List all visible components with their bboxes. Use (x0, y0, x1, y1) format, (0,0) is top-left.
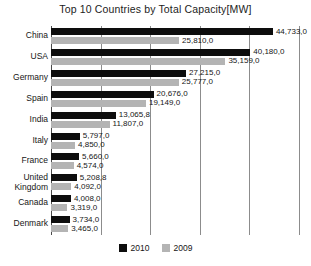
bar-group: 5,208,84,092,0 (51, 174, 299, 195)
bar-value-label: 4,008,0 (74, 195, 101, 203)
bar-group: 44,733,025,810,0 (51, 28, 299, 49)
bar-group: 3,734,03,465,0 (51, 216, 299, 237)
bar-2010 (51, 174, 77, 181)
bar-2010 (51, 49, 250, 56)
bar-value-label: 20,676,0 (157, 90, 188, 98)
gridline (299, 26, 300, 235)
category-axis: ChinaUSAGermanySpainIndiaItalyFranceUnit… (0, 26, 48, 235)
bar-2009 (51, 183, 71, 190)
bar-group: 4,008,03,319,0 (51, 195, 299, 216)
category-label: Denmark (0, 219, 48, 229)
bar-value-label: 13,065,8 (119, 111, 150, 119)
bar-2010 (51, 112, 116, 119)
bar-group: 13,065,811,807,0 (51, 112, 299, 133)
bar-2009 (51, 162, 74, 169)
bar-value-label: 5,660,0 (82, 153, 109, 161)
legend-item-2009[interactable]: 2009 (162, 243, 193, 253)
chart-legend: 20102009 (0, 243, 311, 253)
bar-2010 (51, 153, 79, 160)
legend-label: 2010 (131, 243, 150, 253)
category-label: China (0, 31, 48, 41)
bar-group: 5,797,04,850,0 (51, 133, 299, 154)
bar-value-label: 4,850,0 (78, 141, 105, 149)
bar-value-label: 25,810,0 (182, 37, 213, 45)
bar-group: 27,215,025,777,0 (51, 70, 299, 91)
plot-area: 44,733,025,810,040,180,035,159,027,215,0… (51, 26, 299, 235)
bar-2009 (51, 79, 179, 86)
chart-title: Top 10 Countries by Total Capacity[MW] (0, 3, 311, 15)
bar-value-label: 25,777,0 (182, 78, 213, 86)
legend-item-2010[interactable]: 2010 (119, 243, 150, 253)
bar-2010 (51, 28, 273, 35)
category-label: USA (0, 52, 48, 62)
bar-value-label: 4,092,0 (74, 183, 101, 191)
bar-group: 5,660,04,574,0 (51, 153, 299, 174)
category-label: United Kingdom (0, 173, 48, 192)
legend-swatch-icon (119, 244, 127, 252)
bar-value-label: 4,574,0 (77, 162, 104, 170)
bar-value-label: 44,733,0 (276, 28, 307, 36)
bar-value-label: 3,319,0 (70, 204, 97, 212)
bar-group: 20,676,019,149,0 (51, 91, 299, 112)
bar-2009 (51, 100, 146, 107)
bar-2009 (51, 204, 67, 211)
bar-value-label: 3,734,0 (73, 216, 100, 224)
bar-group: 40,180,035,159,0 (51, 49, 299, 70)
bar-2010 (51, 195, 71, 202)
category-label: Germany (0, 73, 48, 83)
bar-2010 (51, 70, 186, 77)
category-label: France (0, 156, 48, 166)
category-label: Spain (0, 94, 48, 104)
bar-value-label: 3,465,0 (71, 225, 98, 233)
bar-2009 (51, 37, 179, 44)
bar-2010 (51, 216, 70, 223)
bar-value-label: 19,149,0 (149, 99, 180, 107)
bar-value-label: 40,180,0 (253, 48, 284, 56)
bar-chart: Top 10 Countries by Total Capacity[MW] C… (0, 0, 311, 266)
bar-2009 (51, 142, 75, 149)
category-label: India (0, 115, 48, 125)
bar-value-label: 35,159,0 (228, 57, 259, 65)
bar-2010 (51, 133, 80, 140)
bar-2009 (51, 225, 68, 232)
legend-label: 2009 (174, 243, 193, 253)
bar-2009 (51, 121, 110, 128)
bar-value-label: 5,797,0 (83, 132, 110, 140)
legend-swatch-icon (162, 244, 170, 252)
category-label: Italy (0, 136, 48, 146)
category-label: Canada (0, 198, 48, 208)
bar-value-label: 11,807,0 (113, 120, 144, 128)
bar-2009 (51, 58, 225, 65)
bar-value-label: 27,215,0 (189, 69, 220, 77)
bar-2010 (51, 91, 154, 98)
bar-value-label: 5,208,8 (80, 174, 107, 182)
